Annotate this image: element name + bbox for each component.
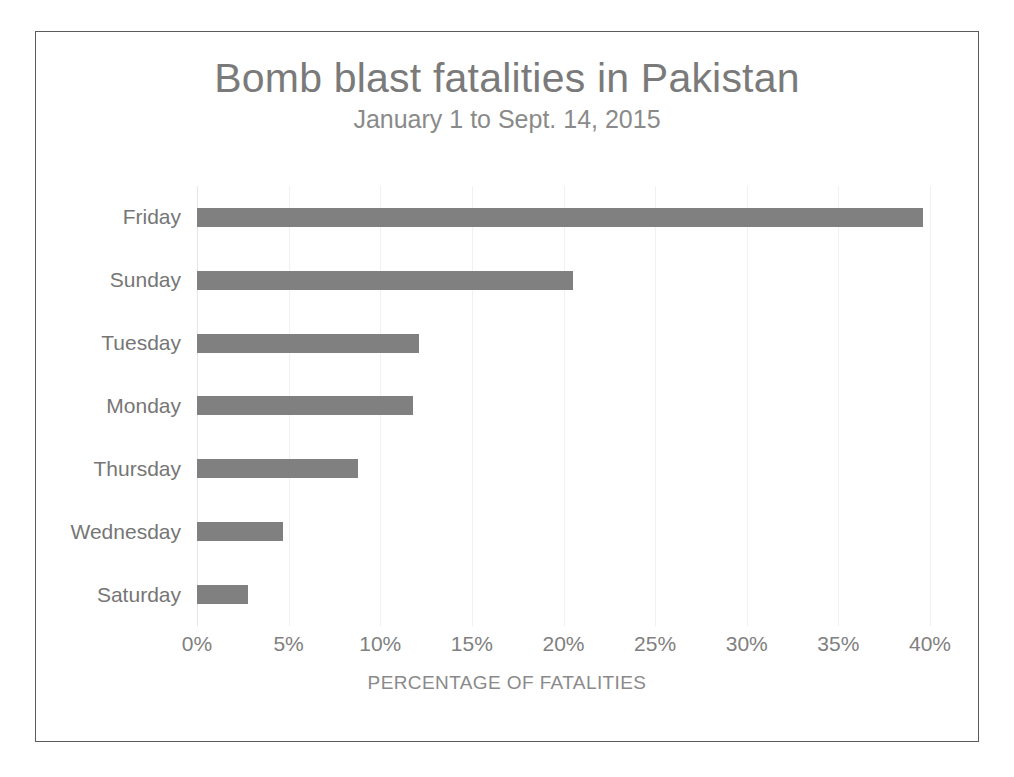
- bar-sunday: [197, 271, 573, 290]
- category-axis-labels: FridaySundayTuesdayMondayThursdayWednesd…: [36, 186, 191, 626]
- bar-saturday: [197, 585, 248, 604]
- bar-friday: [197, 208, 923, 227]
- category-label-sunday: Sunday: [110, 249, 181, 312]
- bar-thursday: [197, 459, 358, 478]
- bar-row: [197, 312, 930, 375]
- bar-wednesday: [197, 522, 283, 541]
- bar-row: [197, 186, 930, 249]
- x-tick-label-15%: 15%: [451, 632, 493, 656]
- x-tick-label-25%: 25%: [634, 632, 676, 656]
- bar-row: [197, 437, 930, 500]
- category-label-tuesday: Tuesday: [101, 312, 181, 375]
- category-label-monday: Monday: [106, 375, 181, 438]
- x-tick-label-30%: 30%: [726, 632, 768, 656]
- x-axis-title: PERCENTAGE OF FATALITIES: [36, 672, 978, 694]
- bar-tuesday: [197, 334, 419, 353]
- value-axis-tick-labels: 0%5%10%15%20%25%30%35%40%: [197, 632, 930, 664]
- chart-subtitle: January 1 to Sept. 14, 2015: [36, 106, 978, 134]
- x-tick-label-5%: 5%: [273, 632, 303, 656]
- bar-series: [197, 186, 930, 626]
- category-label-thursday: Thursday: [93, 437, 181, 500]
- bar-row: [197, 249, 930, 312]
- gridline-40%: [930, 186, 931, 626]
- bar-monday: [197, 396, 413, 415]
- category-label-saturday: Saturday: [97, 563, 181, 626]
- chart-title: Bomb blast fatalities in Pakistan: [36, 56, 978, 100]
- category-label-friday: Friday: [123, 186, 181, 249]
- x-tick-label-0%: 0%: [182, 632, 212, 656]
- x-tick-label-20%: 20%: [542, 632, 584, 656]
- chart-frame: Bomb blast fatalities in Pakistan Januar…: [35, 31, 979, 742]
- bar-row: [197, 563, 930, 626]
- x-tick-label-10%: 10%: [359, 632, 401, 656]
- bar-row: [197, 500, 930, 563]
- x-tick-label-40%: 40%: [909, 632, 951, 656]
- bar-row: [197, 375, 930, 438]
- x-tick-label-35%: 35%: [817, 632, 859, 656]
- category-label-wednesday: Wednesday: [70, 500, 181, 563]
- plot-area: [197, 186, 930, 626]
- title-block: Bomb blast fatalities in Pakistan Januar…: [36, 56, 978, 134]
